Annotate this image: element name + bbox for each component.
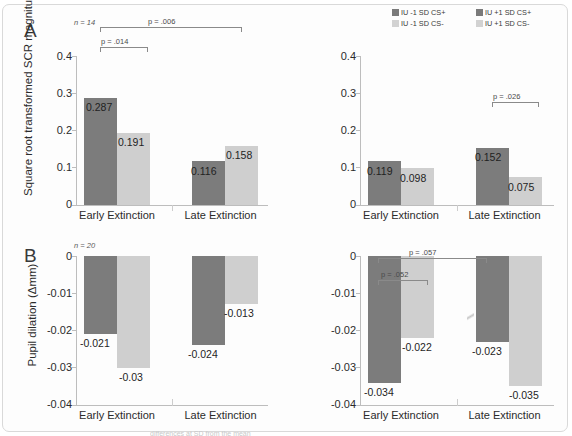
y-tick-0: 0 bbox=[306, 250, 356, 262]
y-tick-0.2: 0.2 bbox=[30, 124, 72, 136]
y-axis-line bbox=[360, 56, 361, 206]
chart-b-right: 0 -0.01 -0.02 -0.03 -0.04 -0.034 -0.022 … bbox=[286, 218, 572, 436]
y-tick--0.02: -0.02 bbox=[22, 324, 72, 336]
y-tick-mark bbox=[72, 56, 76, 57]
y-tick-0.1: 0.1 bbox=[30, 161, 72, 173]
chart-a-left: 0.4 0.3 0.2 0.1 0 0.287 0.191 0.116 0.15… bbox=[0, 0, 286, 218]
y-axis-line bbox=[76, 256, 77, 406]
chart-b-left: 0 -0.01 -0.02 -0.03 -0.04 -0.021 -0.03 -… bbox=[0, 218, 286, 436]
y-tick-0.3: 0.3 bbox=[30, 87, 72, 99]
bar-value-early-csplus: -0.021 bbox=[80, 337, 110, 349]
y-tick--0.01: -0.01 bbox=[22, 287, 72, 299]
bar-late-csplus bbox=[192, 256, 225, 345]
bar-value-early-csplus: 0.287 bbox=[86, 101, 112, 113]
scan-artifact bbox=[467, 311, 474, 322]
bar-value-late-csminus: -0.035 bbox=[509, 389, 539, 401]
x-tick-early-extinction: Early Extinction bbox=[346, 409, 456, 421]
bar-value-early-csminus: 0.098 bbox=[400, 172, 426, 184]
y-tick-mark bbox=[356, 367, 360, 368]
y-tick-mark bbox=[356, 330, 360, 331]
x-tick-early-extinction: Early Extinction bbox=[62, 409, 172, 421]
y-tick--0.03: -0.03 bbox=[22, 361, 72, 373]
y-tick-mark bbox=[356, 256, 360, 257]
y-tick--0.01: -0.01 bbox=[306, 287, 356, 299]
bar-value-late-csplus: 0.152 bbox=[475, 151, 501, 163]
y-tick-0.1: 0.1 bbox=[314, 161, 356, 173]
y-tick-mark bbox=[72, 256, 76, 257]
y-tick-0: 0 bbox=[22, 250, 72, 262]
y-tick-mark bbox=[356, 167, 360, 168]
x-tick-late-extinction: Late Extinction bbox=[452, 409, 557, 421]
bar-late-csminus bbox=[225, 256, 258, 304]
significance-label-006: p = .006 bbox=[148, 17, 175, 26]
bar-value-early-csplus: -0.034 bbox=[364, 386, 394, 398]
bar-value-early-csminus: -0.03 bbox=[119, 371, 143, 383]
bar-early-csminus bbox=[117, 256, 150, 368]
y-tick-mark bbox=[72, 330, 76, 331]
y-tick-mark bbox=[356, 405, 360, 406]
bar-value-late-csplus: 0.116 bbox=[191, 165, 217, 177]
bar-value-late-csminus: -0.013 bbox=[224, 307, 254, 319]
y-tick--0.02: -0.02 bbox=[306, 324, 356, 336]
bar-early-csplus bbox=[84, 98, 117, 205]
significance-label-026: p = .026 bbox=[493, 92, 520, 101]
y-tick-mark bbox=[356, 130, 360, 131]
bar-value-early-csminus: -0.022 bbox=[402, 341, 432, 353]
y-tick-0.4: 0.4 bbox=[30, 50, 72, 62]
bar-early-csminus bbox=[401, 256, 434, 338]
bar-value-early-csminus: 0.191 bbox=[118, 136, 144, 148]
bar-early-csplus bbox=[84, 256, 117, 334]
y-tick-mark bbox=[72, 93, 76, 94]
y-tick-0.4: 0.4 bbox=[314, 50, 356, 62]
y-tick-0.3: 0.3 bbox=[314, 87, 356, 99]
x-tick-late-extinction: Late Extinction bbox=[168, 409, 273, 421]
y-tick-mark bbox=[72, 205, 76, 206]
figure-caption-partial: differences at SD from the mean bbox=[150, 429, 568, 436]
y-tick-mark bbox=[72, 405, 76, 406]
y-tick-mark bbox=[72, 293, 76, 294]
y-tick-mark bbox=[72, 367, 76, 368]
significance-label-014: p = .014 bbox=[101, 37, 128, 46]
y-axis-line bbox=[360, 256, 361, 406]
significance-label-057: p = .057 bbox=[409, 248, 436, 257]
y-tick-mark bbox=[356, 93, 360, 94]
bar-value-late-csminus: 0.075 bbox=[508, 181, 534, 193]
y-tick-mark bbox=[356, 56, 360, 57]
x-axis-separator bbox=[172, 399, 173, 406]
significance-label-052: p = .052 bbox=[381, 270, 408, 279]
bar-value-early-csplus: 0.119 bbox=[367, 165, 393, 177]
y-tick-mark bbox=[72, 130, 76, 131]
chart-a-right: 0.4 0.3 0.2 0.1 0 0.119 0.098 0.152 0.07… bbox=[286, 0, 572, 218]
y-tick-0.2: 0.2 bbox=[314, 124, 356, 136]
y-tick-mark bbox=[72, 167, 76, 168]
bar-value-late-csplus: -0.023 bbox=[472, 345, 502, 357]
bar-value-late-csminus: 0.158 bbox=[226, 149, 252, 161]
bar-late-csplus bbox=[476, 256, 509, 342]
bar-late-csminus bbox=[509, 256, 542, 386]
y-axis-line bbox=[76, 56, 77, 206]
y-tick-mark bbox=[356, 293, 360, 294]
x-axis-separator bbox=[457, 399, 458, 406]
bar-value-late-csplus: -0.024 bbox=[188, 348, 218, 360]
y-tick-mark bbox=[356, 205, 360, 206]
y-tick--0.03: -0.03 bbox=[306, 361, 356, 373]
